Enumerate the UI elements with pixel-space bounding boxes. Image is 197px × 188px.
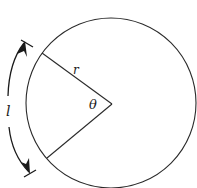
- arc-length-label: l: [6, 103, 10, 119]
- circle-sector-diagram: l r θ: [0, 0, 197, 188]
- arc-length-tick-bottom: [24, 170, 36, 177]
- radius-line-lower: [47, 104, 112, 158]
- arrowhead-down-icon: [21, 158, 30, 174]
- angle-label: θ: [89, 97, 97, 112]
- arrowhead-up-icon: [17, 41, 27, 57]
- radius-line-upper: [42, 53, 112, 104]
- radius-label: r: [73, 63, 80, 77]
